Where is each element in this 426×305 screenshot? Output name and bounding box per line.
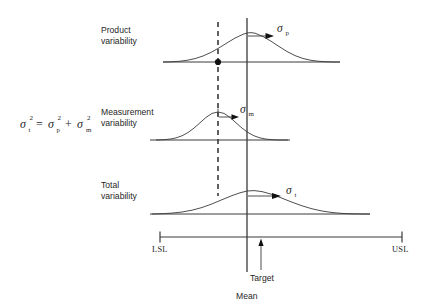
spec-limit-axis: LSL USL [152, 232, 409, 255]
total-distribution-curve [152, 191, 370, 214]
product-sigma-arrow [248, 33, 274, 39]
total-variability-plot: σ t [150, 184, 370, 214]
product-sigma-subscript: p [286, 29, 290, 37]
formula-sigma-t-subscript: t [29, 126, 31, 134]
product-distribution-curve [163, 33, 340, 62]
row-label-measurement-line2: variability [101, 118, 138, 128]
usl-label: USL [392, 245, 409, 254]
formula-sigma-p: σ [48, 117, 55, 131]
formula-sigma-p-subscript: p [57, 126, 61, 134]
row-label-product-line1: Product [101, 25, 131, 35]
measurement-sigma-symbol: σ [240, 103, 247, 115]
product-variability-plot: σ p [163, 22, 340, 65]
measurement-sigma-arrow [219, 114, 239, 119]
formula-sigma-m-subscript: m [86, 126, 92, 134]
formula-sigma-p-exponent: 2 [58, 114, 62, 122]
row-label-measurement: Measurement variability [101, 107, 154, 128]
formula-sigma-m-exponent: 2 [87, 114, 91, 122]
row-label-product-line2: variability [101, 36, 138, 46]
row-label-total-line1: Total [101, 180, 119, 190]
diagram-canvas: σ 2 t = σ 2 p + σ 2 m Product variabilit… [0, 0, 426, 305]
total-sigma-arrow [248, 193, 281, 199]
formula-sigma-t: σ [20, 117, 27, 131]
formula-equals: = [36, 117, 43, 131]
formula-sigma-m: σ [77, 117, 84, 131]
measurement-distribution-curve [156, 112, 288, 140]
measurement-sigma-subscript: m [249, 110, 255, 118]
mean-label: Mean [236, 291, 258, 301]
row-label-measurement-line1: Measurement [101, 107, 154, 117]
total-sigma-symbol: σ [286, 184, 293, 196]
row-label-product: Product variability [101, 25, 138, 46]
measurement-variability-plot: σ m [150, 103, 290, 140]
lsl-label: LSL [152, 245, 168, 254]
row-label-total: Total variability [101, 180, 138, 201]
variability-diagram: σ 2 t = σ 2 p + σ 2 m Product variabilit… [0, 0, 426, 305]
formula-plus: + [65, 117, 72, 131]
target-intersection-dot [215, 59, 221, 65]
product-sigma-symbol: σ [277, 22, 284, 34]
target-marker: Target [250, 239, 274, 284]
row-label-total-line2: variability [101, 191, 138, 201]
target-label: Target [250, 273, 274, 283]
variance-formula: σ 2 t = σ 2 p + σ 2 m [20, 114, 92, 134]
formula-sigma-t-exponent: 2 [30, 114, 34, 122]
total-sigma-subscript: t [295, 191, 297, 199]
